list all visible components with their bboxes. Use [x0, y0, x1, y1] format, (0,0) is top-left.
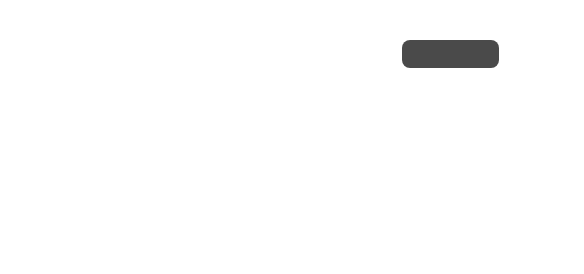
- legend-item-percent-funded: [224, 247, 235, 254]
- legend-swatch-icon: [170, 247, 177, 254]
- education-callout: [402, 40, 499, 68]
- legend-circle-icon: [224, 247, 231, 254]
- legend: [170, 247, 235, 254]
- legend-swatch-icon: [197, 247, 204, 254]
- legend-item-funding-received: [170, 247, 181, 254]
- legend-item-unmet-requirements: [197, 247, 208, 254]
